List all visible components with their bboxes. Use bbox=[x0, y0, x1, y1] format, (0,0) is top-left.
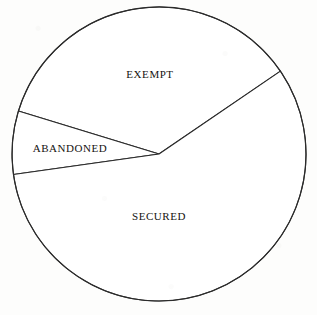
pie-chart-figure: EXEMPT ABANDONED SECURED bbox=[0, 0, 317, 315]
slice-label-secured: SECURED bbox=[132, 210, 186, 222]
slice-label-exempt: EXEMPT bbox=[126, 68, 173, 80]
pie-chart-canvas bbox=[0, 0, 317, 315]
slice-label-abandoned: ABANDONED bbox=[33, 142, 108, 154]
